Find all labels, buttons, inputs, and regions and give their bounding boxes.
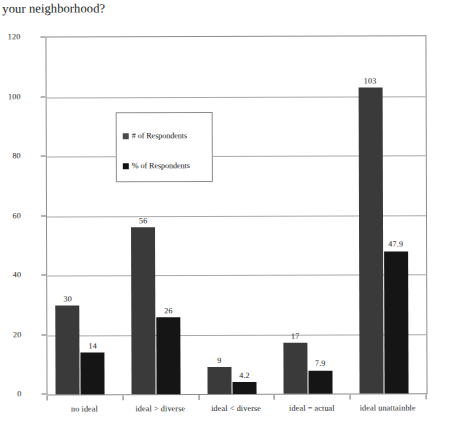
bar-value-label: 7.9 bbox=[315, 359, 326, 368]
bar bbox=[56, 305, 80, 394]
bar bbox=[233, 381, 257, 394]
bar bbox=[81, 353, 105, 395]
bar-value-label: 30 bbox=[63, 294, 71, 303]
x-axis-tick-label: no ideal bbox=[71, 404, 98, 413]
x-axis-tick-mark bbox=[274, 395, 275, 400]
bar-chart-figure: your neighborhood? 020406080100120 no id… bbox=[0, 0, 452, 437]
x-axis-tick-label: ideal > diverse bbox=[135, 404, 185, 413]
legend-swatch-icon bbox=[123, 163, 129, 169]
bar-value-label: 14 bbox=[89, 342, 97, 351]
x-axis-tick-mark bbox=[426, 394, 427, 399]
bar bbox=[384, 251, 408, 394]
x-axis-tick-label: ideal = actual bbox=[289, 404, 335, 413]
bar bbox=[156, 317, 180, 394]
bar-value-label: 26 bbox=[164, 306, 172, 315]
plot-area: 3014562694.2177.910347.9 bbox=[46, 36, 426, 394]
y-axis-tick-label: 120 bbox=[0, 32, 20, 41]
y-axis-tick-label: 0 bbox=[0, 389, 22, 398]
bar-value-label: 103 bbox=[364, 76, 377, 85]
plot-frame: 3014562694.2177.910347.9 # of Respondent… bbox=[45, 35, 427, 395]
question-text: your neighborhood? bbox=[2, 1, 105, 16]
x-axis-tick-label: ideal < diverse bbox=[211, 404, 261, 413]
legend-item-label: # of Respondents bbox=[132, 131, 187, 140]
legend-item: # of Respondents bbox=[123, 131, 187, 140]
y-axis-tick-label: 20 bbox=[0, 330, 21, 339]
bar-value-label: 56 bbox=[139, 217, 147, 226]
bar bbox=[358, 87, 383, 393]
x-axis-tick-mark bbox=[198, 395, 199, 400]
legend-swatch-icon bbox=[123, 133, 129, 139]
bar bbox=[207, 367, 231, 394]
x-axis-tick-label: ideal unattainble bbox=[360, 403, 416, 412]
bar-value-label: 4.2 bbox=[239, 370, 250, 379]
x-axis-tick-mark bbox=[122, 395, 123, 400]
bar-value-label: 9 bbox=[217, 356, 221, 365]
legend-item: % of Respondents bbox=[123, 161, 190, 170]
x-axis-tick-mark bbox=[47, 396, 48, 401]
y-axis-tick-label: 100 bbox=[0, 92, 21, 101]
bar bbox=[308, 370, 332, 394]
bar bbox=[131, 228, 156, 395]
bar bbox=[283, 343, 307, 394]
bar-value-label: 47.9 bbox=[388, 240, 403, 249]
x-axis-tick-mark bbox=[350, 395, 351, 400]
bar-value-label: 17 bbox=[291, 332, 299, 341]
y-axis-tick-label: 40 bbox=[0, 270, 21, 279]
y-axis-tick-label: 60 bbox=[0, 211, 21, 220]
legend-item-label: % of Respondents bbox=[132, 161, 190, 170]
y-axis-tick-label: 80 bbox=[0, 151, 21, 160]
chart-legend: # of Respondents % of Respondents bbox=[116, 112, 213, 182]
